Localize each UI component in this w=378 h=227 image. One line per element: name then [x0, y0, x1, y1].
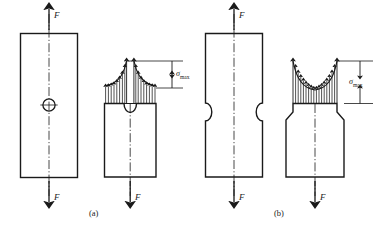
- panel-a-stress-detail: [105, 61, 184, 202]
- stress-curve-left-a: [105, 61, 127, 86]
- force-label-top-a: F: [54, 11, 60, 20]
- panel-b: [206, 9, 374, 202]
- force-label-top-b: F: [239, 11, 245, 20]
- stress-curve-right-a: [134, 61, 156, 86]
- sigma-subscript-b: max: [353, 82, 362, 88]
- panel-a: [21, 9, 184, 202]
- detail-force-label-bottom-a: F: [135, 193, 141, 202]
- stress-hatch-b: [296, 67, 335, 103]
- sigma-subscript-a: max: [180, 74, 189, 80]
- force-label-bottom-b: F: [239, 193, 245, 202]
- stress-curve-b: [293, 61, 337, 90]
- sigma-max-label-a: σmax: [176, 70, 189, 80]
- sigma-max-label-b: σmax: [349, 78, 362, 88]
- panel-a-plate: [21, 9, 78, 202]
- panel-caption-b: (b): [274, 209, 284, 218]
- detail-force-label-bottom-b: F: [320, 193, 326, 202]
- panel-b-bar: [206, 9, 263, 202]
- force-label-bottom-a: F: [54, 193, 60, 202]
- panel-caption-a: (a): [89, 209, 98, 218]
